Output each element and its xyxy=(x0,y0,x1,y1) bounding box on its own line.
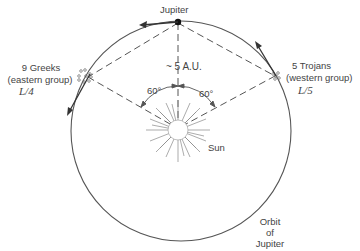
angle-left-label: 60° xyxy=(147,85,161,96)
trojans-label-line2: (western group) xyxy=(286,72,353,83)
angle-right-label: 60° xyxy=(199,88,213,99)
greeks-label-line2: (eastern group) xyxy=(2,74,78,85)
orbit-label-line2: of xyxy=(250,227,290,238)
trojans-lagrange-point: L/5 xyxy=(298,85,313,96)
greeks-cluster xyxy=(78,69,93,84)
dashed-lines xyxy=(88,23,275,130)
greeks-label-line1: 9 Greeks xyxy=(6,62,76,73)
jupiter-velocity-arrow xyxy=(142,22,178,25)
lagrange-diagram xyxy=(0,0,360,251)
orbit-label-line1: Orbit xyxy=(250,216,290,227)
orbit-label-line3: Jupiter xyxy=(250,238,290,249)
sun xyxy=(168,120,188,140)
distance-label: ~ 5 A.U. xyxy=(166,61,202,72)
greeks-lagrange-point: L/4 xyxy=(19,86,34,97)
sun-label: Sun xyxy=(208,142,225,153)
jupiter-label: Jupiter xyxy=(160,4,189,15)
trojans-label-line1: 5 Trojans xyxy=(292,60,331,71)
